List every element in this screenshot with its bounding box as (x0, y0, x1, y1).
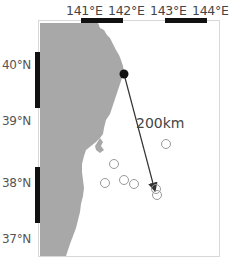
event-circle (120, 176, 129, 185)
event-circle (152, 185, 161, 194)
site-marker (120, 70, 129, 79)
distance-arrow (124, 74, 155, 191)
event-circle (130, 180, 139, 189)
event-circle (162, 140, 171, 149)
distance-label: 200km (136, 115, 184, 131)
overlay-layer (0, 0, 229, 264)
event-circle (110, 160, 119, 169)
event-circle (101, 179, 110, 188)
event-circle (153, 191, 162, 200)
